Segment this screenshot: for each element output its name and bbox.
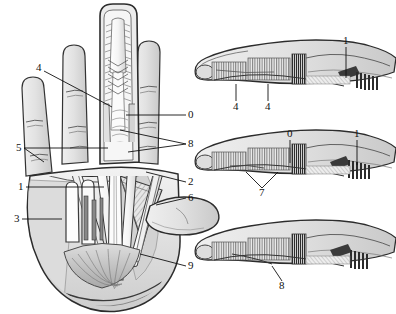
anatomy-figure-svg: 4513082691440178 xyxy=(0,0,396,314)
label-palm-2-6: 2 xyxy=(188,175,194,187)
label-palm-9-8: 9 xyxy=(188,259,194,271)
finger-lateral-view-middle xyxy=(195,130,396,179)
middle-finger-dissected xyxy=(100,4,139,164)
label-finger-top-1-0: 1 xyxy=(343,34,349,46)
thumb xyxy=(146,197,219,235)
label-finger-mid-1-1: 1 xyxy=(354,127,360,139)
label-palm-8-5: 8 xyxy=(188,137,194,149)
label-palm-3-3: 3 xyxy=(14,212,20,224)
label-palm-4-0: 4 xyxy=(36,61,42,73)
label-palm-6-7: 6 xyxy=(188,191,194,203)
label-finger-top-4-1: 4 xyxy=(233,100,239,112)
little-finger xyxy=(22,77,52,176)
label-palm-5-1: 5 xyxy=(16,141,22,153)
label-finger-bot-8-0: 8 xyxy=(279,279,285,291)
label-palm-1-2: 1 xyxy=(18,180,24,192)
label-finger-mid-0-0: 0 xyxy=(287,127,293,139)
label-finger-mid-7-2: 7 xyxy=(259,186,265,198)
label-finger-top-4-2: 4 xyxy=(265,100,271,112)
finger-lateral-view-top xyxy=(195,40,396,90)
index-finger xyxy=(62,45,88,164)
anatomy-figure: 4513082691440178 xyxy=(0,0,396,314)
finger-lateral-view-bottom xyxy=(195,220,396,269)
label-palm-0-4: 0 xyxy=(188,108,194,120)
